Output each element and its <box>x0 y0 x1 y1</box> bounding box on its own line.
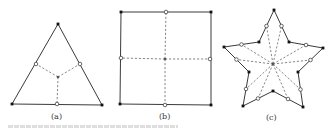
dual-edge <box>258 64 273 99</box>
dual-edge <box>57 77 58 104</box>
vertex-point-icon <box>302 106 305 109</box>
outline <box>12 24 102 105</box>
midpoint-circle-icon <box>235 58 239 62</box>
dual-edge <box>273 64 288 99</box>
panel-c-star <box>223 9 325 109</box>
panel-a-triangle <box>11 23 104 107</box>
dual-edge <box>242 45 274 65</box>
dual-edge <box>58 64 80 77</box>
midpoint-circle-icon <box>119 56 123 60</box>
panel-c-label: (c) <box>266 113 277 122</box>
midpoint-circle-icon <box>163 103 167 107</box>
vertex-point-icon <box>223 46 226 49</box>
vertex-point-icon <box>242 105 245 108</box>
midpoint-circle-icon <box>78 62 82 66</box>
vertex-point-icon <box>248 71 251 74</box>
vertex-point-icon <box>120 11 123 14</box>
panel-b-square <box>119 10 213 107</box>
dual-edge <box>267 26 274 64</box>
midpoint-circle-icon <box>256 97 260 101</box>
figure-canvas: (a) (b) (c) <box>0 0 333 131</box>
center-point-icon <box>57 76 60 79</box>
midpoint-circle-icon <box>208 57 212 61</box>
midpoint-circle-icon <box>240 43 244 47</box>
panel-a-label: (a) <box>51 112 62 121</box>
dual-edge <box>121 58 165 59</box>
vertex-point-icon <box>272 90 275 93</box>
figure-caption-cropped <box>8 125 178 128</box>
dual-edge <box>246 64 273 89</box>
dual-edge <box>237 60 274 65</box>
dual-edge <box>273 26 282 64</box>
dual-edge <box>273 64 301 90</box>
midpoint-circle-icon <box>55 102 59 106</box>
midpoint-circle-icon <box>286 97 290 101</box>
midpoint-circle-icon <box>244 87 248 91</box>
midpoint-circle-icon <box>34 62 38 66</box>
vertex-point-icon <box>273 9 276 12</box>
dual-edge <box>165 12 166 59</box>
midpoint-circle-icon <box>280 24 284 28</box>
vertex-point-icon <box>322 47 325 50</box>
center-point-icon <box>164 58 167 61</box>
outline <box>224 10 323 107</box>
vertex-point-icon <box>210 11 213 14</box>
dual-edge <box>36 64 58 77</box>
midpoint-circle-icon <box>299 88 303 92</box>
dual-edge <box>273 60 311 64</box>
midpoint-circle-icon <box>164 10 168 14</box>
vertex-point-icon <box>119 103 122 106</box>
vertex-point-icon <box>258 41 261 44</box>
midpoint-circle-icon <box>265 24 269 28</box>
panel-b-label: (b) <box>159 112 170 121</box>
vertex-point-icon <box>101 104 104 107</box>
midpoint-circle-icon <box>304 43 308 47</box>
midpoint-circle-icon <box>309 58 313 62</box>
center-point-icon <box>272 63 275 66</box>
vertex-point-icon <box>288 41 291 44</box>
vertex-point-icon <box>57 23 60 26</box>
vertex-point-icon <box>11 103 14 106</box>
vertex-point-icon <box>297 71 300 74</box>
vertex-point-icon <box>210 104 213 107</box>
